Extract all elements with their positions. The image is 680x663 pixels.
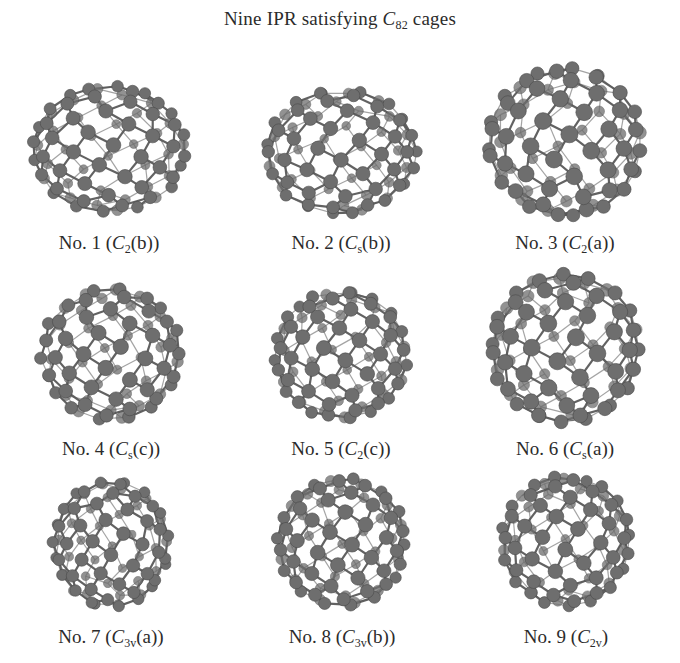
carbon-atom [610, 566, 623, 579]
carbon-atom [310, 545, 325, 560]
carbon-atom [70, 585, 81, 596]
carbon-atom [322, 397, 336, 411]
atoms-group [262, 86, 422, 218]
carbon-atom [77, 195, 90, 208]
carbon-atom [122, 389, 132, 399]
carbon-atom [167, 140, 180, 153]
carbon-atom [324, 175, 338, 189]
label-suffix: ) [602, 626, 608, 647]
carbon-atom [527, 575, 541, 589]
carbon-atom [296, 330, 310, 344]
carbon-atom [291, 104, 304, 117]
carbon-atom [262, 146, 274, 158]
fullerene-cage-8-image [264, 464, 420, 620]
carbon-atom [622, 547, 634, 559]
carbon-atom [518, 304, 534, 320]
cage-4-label: No. 4 (Cs(c)) [0, 438, 226, 460]
carbon-atom [360, 367, 375, 382]
carbon-atom [498, 128, 514, 144]
carbon-atom [65, 401, 78, 414]
carbon-atom [620, 513, 632, 525]
fullerene-cage-6-image [476, 260, 654, 436]
carbon-atom [597, 200, 611, 214]
carbon-atom [325, 374, 340, 389]
carbon-atom [74, 519, 87, 532]
carbon-atom [65, 552, 74, 561]
label-suffix: (c)) [133, 438, 160, 459]
carbon-atom [540, 369, 550, 379]
carbon-atom [581, 272, 595, 286]
carbon-atom [98, 360, 113, 375]
carbon-atom [102, 594, 114, 606]
label-prefix: No. 6 ( [516, 438, 569, 459]
carbon-atom [154, 523, 166, 535]
carbon-atom [563, 578, 577, 592]
carbon-atom [563, 72, 578, 87]
carbon-atom [347, 174, 356, 183]
carbon-atom [626, 323, 640, 337]
carbon-atom [118, 169, 132, 183]
carbon-atom [346, 207, 358, 219]
carbon-atom [579, 307, 596, 324]
carbon-atom [548, 564, 563, 579]
carbon-atom [306, 407, 318, 419]
carbon-atom [118, 564, 126, 572]
carbon-atom [359, 479, 372, 492]
carbon-atom [47, 537, 58, 548]
carbon-atom [344, 486, 358, 500]
carbon-atom [349, 404, 362, 417]
carbon-atom [379, 195, 391, 207]
carbon-atom [383, 98, 395, 110]
carbon-atom [550, 64, 564, 78]
carbon-atom [551, 208, 565, 222]
carbon-atom [135, 180, 149, 194]
carbon-atom [61, 97, 74, 110]
carbon-atom [292, 396, 305, 409]
carbon-atom [99, 104, 113, 118]
carbon-atom [605, 498, 618, 511]
cage-8-label: No. 8 (C3v(b)) [227, 626, 457, 648]
carbon-atom [522, 290, 534, 302]
carbon-atom [272, 124, 285, 137]
carbon-atom [78, 486, 90, 498]
carbon-atom [117, 290, 131, 304]
carbon-atom [280, 189, 292, 201]
carbon-atom [618, 532, 631, 545]
carbon-atom [321, 493, 335, 507]
carbon-atom [58, 331, 73, 346]
carbon-atom [168, 118, 181, 131]
carbon-atom [166, 108, 177, 119]
carbon-atom [84, 380, 99, 395]
carbon-atom [510, 397, 524, 411]
label-prefix: No. 8 ( [289, 626, 342, 647]
carbon-atom [129, 140, 138, 149]
carbon-atom [388, 362, 402, 376]
carbon-atom [88, 90, 101, 103]
carbon-atom [377, 564, 391, 578]
carbon-atom [138, 351, 153, 366]
carbon-atom [53, 164, 67, 178]
carbon-atom [351, 571, 365, 585]
carbon-atom [106, 138, 121, 153]
carbon-atom [326, 292, 339, 305]
carbon-atom [377, 127, 386, 136]
carbon-atom [142, 304, 156, 318]
carbon-atom [613, 304, 628, 319]
carbon-atom [388, 130, 402, 144]
carbon-atom [136, 538, 149, 551]
carbon-atom [132, 201, 144, 213]
carbon-atom [394, 114, 407, 127]
carbon-atom [104, 548, 118, 562]
title-molecule-symbol: C [383, 8, 396, 29]
carbon-atom [146, 107, 159, 120]
carbon-atom [351, 560, 360, 569]
cage-5-label: No. 5 (C2(c)) [226, 438, 456, 460]
carbon-atom [43, 369, 56, 382]
carbon-atom [394, 558, 406, 570]
cage-7-label: No. 7 (C3v(a)) [0, 626, 226, 648]
carbon-atom [76, 347, 91, 362]
point-group-symbol: C [342, 626, 355, 647]
carbon-atom [302, 199, 314, 211]
carbon-atom [86, 597, 97, 608]
carbon-atom [117, 527, 131, 541]
